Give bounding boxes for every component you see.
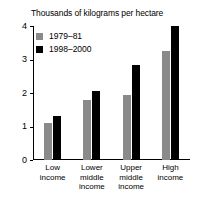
- bar: [83, 100, 91, 160]
- legend-item: 1979–81: [36, 31, 92, 42]
- x-axis-category-label: Lowincome: [32, 163, 74, 182]
- x-axis-category-label: Uppermiddleincome: [110, 163, 152, 192]
- bar: [92, 91, 100, 160]
- y-axis-tick-mark: [30, 160, 33, 161]
- x-label-line: Low: [45, 163, 60, 172]
- bar-chart: Thousands of kilograms per hectare 01234…: [0, 0, 203, 201]
- legend-label: 1998–2000: [49, 45, 92, 54]
- y-axis-tick-label: 2: [22, 89, 27, 98]
- x-label-line: middle: [80, 173, 104, 182]
- bar-group: [123, 26, 140, 160]
- x-label-line: income: [40, 173, 66, 182]
- legend-swatch-icon: [36, 46, 43, 53]
- x-axis-category-label: Highincome: [149, 163, 191, 182]
- x-label-line: income: [79, 182, 105, 191]
- x-label-line: income: [157, 173, 183, 182]
- bar: [132, 65, 140, 160]
- chart-legend: 1979–811998–2000: [36, 31, 92, 57]
- x-label-line: Lower: [81, 163, 103, 172]
- x-axis-category-labels: LowincomeLowermiddleincomeUppermiddleinc…: [33, 163, 203, 201]
- bar: [53, 116, 61, 160]
- y-axis-tick-label: 0: [22, 156, 27, 165]
- legend-label: 1979–81: [49, 32, 82, 41]
- bar: [171, 26, 179, 160]
- bar: [123, 95, 131, 160]
- legend-swatch-icon: [36, 33, 43, 40]
- x-label-line: Upper: [120, 163, 142, 172]
- legend-item: 1998–2000: [36, 44, 92, 55]
- y-axis: 01234: [0, 20, 33, 168]
- x-label-line: income: [118, 182, 144, 191]
- y-axis-tick-label: 1: [22, 122, 27, 131]
- bar: [44, 123, 52, 160]
- y-axis-tick-label: 3: [22, 55, 27, 64]
- x-label-line: middle: [119, 173, 143, 182]
- bar-group: [162, 26, 179, 160]
- bar: [162, 51, 170, 160]
- chart-title: Thousands of kilograms per hectare: [31, 8, 163, 18]
- x-axis-category-label: Lowermiddleincome: [71, 163, 113, 192]
- y-axis-tick-label: 4: [22, 22, 27, 31]
- x-label-line: High: [162, 163, 178, 172]
